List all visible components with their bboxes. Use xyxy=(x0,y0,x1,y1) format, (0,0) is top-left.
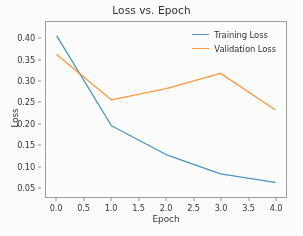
x-tick-mark xyxy=(248,198,249,201)
legend-color-swatch xyxy=(192,48,209,49)
x-tick-label: 3.0 xyxy=(215,203,228,213)
y-axis-tick-labels: 0.050.100.150.200.250.300.350.40 xyxy=(0,21,41,198)
x-tick-mark xyxy=(138,198,139,201)
x-tick-mark xyxy=(276,198,277,201)
y-tick-label: 0.30 xyxy=(17,76,35,86)
legend-entry: Training Loss xyxy=(192,29,276,40)
series-line-validation-loss xyxy=(57,55,275,110)
y-tick-label: 0.35 xyxy=(17,55,35,65)
legend-label: Validation Loss xyxy=(214,44,276,54)
x-tick-label: 0.0 xyxy=(50,203,63,213)
x-tick-mark xyxy=(221,198,222,201)
x-tick-label: 2.5 xyxy=(187,203,200,213)
y-tick-mark xyxy=(38,102,41,103)
chart-title: Loss vs. Epoch xyxy=(0,4,303,16)
y-tick-mark xyxy=(38,81,41,82)
x-tick-label: 1.5 xyxy=(132,203,145,213)
plot-area: Training LossValidation Loss xyxy=(45,21,287,198)
y-axis-label: Loss xyxy=(10,98,20,138)
y-tick-mark xyxy=(38,145,41,146)
x-tick-mark xyxy=(193,198,194,201)
chart-legend: Training LossValidation Loss xyxy=(188,26,282,57)
y-tick-mark xyxy=(38,187,41,188)
x-tick-label: 3.5 xyxy=(242,203,255,213)
y-tick-label: 0.10 xyxy=(17,162,35,172)
x-tick-label: 1.0 xyxy=(105,203,118,213)
legend-color-swatch xyxy=(192,34,209,35)
x-tick-mark xyxy=(166,198,167,201)
x-tick-mark xyxy=(56,198,57,201)
y-tick-label: 0.05 xyxy=(17,183,35,193)
x-tick-mark xyxy=(111,198,112,201)
y-tick-mark xyxy=(38,123,41,124)
y-tick-mark xyxy=(38,166,41,167)
chart-figure: Loss vs. Epoch 0.050.100.150.200.250.300… xyxy=(0,0,303,236)
y-tick-label: 0.15 xyxy=(17,140,35,150)
y-tick-mark xyxy=(38,38,41,39)
x-tick-label: 0.5 xyxy=(77,203,90,213)
legend-label: Training Loss xyxy=(214,30,267,40)
y-tick-mark xyxy=(38,59,41,60)
x-tick-label: 4.0 xyxy=(270,203,283,213)
x-axis-label: Epoch xyxy=(45,214,287,224)
series-line-training-loss xyxy=(57,36,275,182)
x-tick-label: 2.0 xyxy=(160,203,173,213)
y-tick-label: 0.40 xyxy=(17,33,35,43)
x-tick-mark xyxy=(83,198,84,201)
legend-entry: Validation Loss xyxy=(192,43,276,54)
